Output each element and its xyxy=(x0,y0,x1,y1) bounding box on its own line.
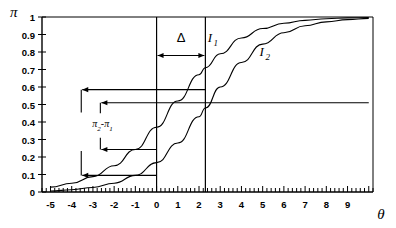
x-tick-label: 3 xyxy=(218,199,223,210)
curve-label-main: I xyxy=(208,30,212,45)
delta-arrowhead-left xyxy=(158,53,164,58)
y-tick-label: 0.1 xyxy=(22,169,35,180)
x-tick-label: 6 xyxy=(281,199,286,210)
x-tick-label: -5 xyxy=(46,199,54,210)
y-tick-label: 0.7 xyxy=(22,64,35,75)
x-tick-label: 7 xyxy=(302,199,307,210)
x-tick-label: 1 xyxy=(175,199,180,210)
chart-render-layer xyxy=(38,17,373,192)
y-tick-label: 0.8 xyxy=(22,47,35,58)
arrow-lower-inner-head xyxy=(101,147,107,152)
y-tick-label: 0 xyxy=(30,187,35,198)
curve-label-i-1: I1 xyxy=(208,28,218,48)
y-tick-label: 0.6 xyxy=(22,82,35,93)
delta-arrowhead-right xyxy=(198,53,204,58)
arrow-upper-inner-head xyxy=(101,100,107,105)
y-axis-title: π xyxy=(10,4,18,21)
y-tick-label: 0.2 xyxy=(22,152,35,163)
x-tick-label: 9 xyxy=(345,199,350,210)
pi-difference-label: π2-π1 xyxy=(92,113,112,133)
x-tick-label: 8 xyxy=(324,199,329,210)
logistic-icc-chart xyxy=(0,0,396,228)
x-tick-label: -2 xyxy=(110,199,118,210)
y-tick-label: 0.4 xyxy=(22,117,35,128)
x-tick-label: -3 xyxy=(89,199,97,210)
y-tick-label: 0.5 xyxy=(22,99,35,110)
x-axis-title: θ xyxy=(377,206,384,223)
y-tick-label: 0.9 xyxy=(22,29,35,40)
curve-label-main: I xyxy=(260,44,264,59)
x-tick-label: 2 xyxy=(196,199,201,210)
arrow-lower-outer-head xyxy=(82,173,88,178)
x-tick-label: 5 xyxy=(260,199,265,210)
pi-difference-sub1: 1 xyxy=(109,125,113,133)
curve-label-i-2: I2 xyxy=(260,42,270,62)
curve-label-subscript: 2 xyxy=(265,52,270,62)
curve-label-subscript: 1 xyxy=(213,38,218,48)
x-tick-label: 4 xyxy=(239,199,244,210)
y-tick-label: 1 xyxy=(30,12,35,23)
chart-container: 00.10.20.30.40.50.60.70.80.91-5-4-3-2-10… xyxy=(0,0,396,228)
delta-label: Δ xyxy=(177,30,186,45)
x-tick-label: -1 xyxy=(131,199,139,210)
arrow-upper-outer-head xyxy=(82,87,88,92)
x-tick-label: 0 xyxy=(154,199,159,210)
x-tick-label: -4 xyxy=(67,199,75,210)
y-tick-label: 0.3 xyxy=(22,134,35,145)
